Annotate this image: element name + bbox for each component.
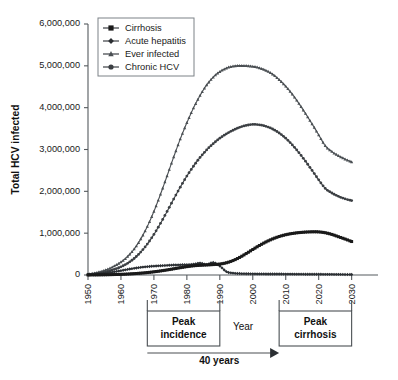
y-tick-label: 2,000,000 (39, 186, 80, 196)
data-point-marker (293, 146, 296, 149)
arrow-head (270, 348, 279, 358)
data-point-marker (302, 157, 305, 160)
data-point-marker (168, 168, 171, 171)
data-point-marker (214, 140, 217, 143)
data-point-marker (205, 149, 208, 152)
y-axis-tick-labels: 01,000,0002,000,0003,000,0004,000,0005,0… (39, 18, 80, 279)
data-point-marker (166, 174, 169, 177)
x-tick-label: 2020 (314, 284, 324, 304)
y-tick-label: 3,000,000 (39, 144, 80, 154)
x-tick-label: 1970 (149, 284, 159, 304)
data-point-marker (133, 257, 136, 260)
data-point-marker (170, 202, 173, 205)
data-point-marker (146, 243, 149, 246)
annotation-label-line2: incidence (160, 329, 207, 340)
y-tick-label: 5,000,000 (39, 60, 80, 70)
data-point-marker (203, 151, 206, 154)
y-tick-label: 1,000,000 (39, 228, 80, 238)
data-point-marker (172, 198, 175, 201)
x-tick-label: 1950 (83, 284, 93, 304)
data-point-marker (216, 139, 219, 142)
data-point-marker (153, 233, 156, 236)
data-point-marker (295, 149, 298, 152)
data-point-marker (190, 168, 193, 171)
data-point-marker (315, 175, 318, 178)
data-point-marker (148, 240, 151, 243)
data-point-marker (185, 175, 188, 178)
data-point-marker (324, 187, 327, 190)
data-point-marker (142, 248, 145, 251)
data-point-marker (159, 222, 162, 225)
data-point-marker (170, 162, 173, 165)
y-axis-title: Total HCV infected (10, 105, 21, 195)
data-point-marker (306, 163, 309, 166)
x-tick-label: 1980 (182, 284, 192, 304)
data-point-marker (212, 142, 215, 145)
data-point-marker (289, 141, 292, 144)
x-tick-label: 2000 (248, 284, 258, 304)
data-point-marker (210, 144, 213, 147)
annotation-peak-cirrhosis: Peakcirrhosis (279, 300, 352, 346)
data-point-marker (311, 169, 314, 172)
data-point-marker (280, 133, 283, 136)
data-point-marker (194, 162, 197, 165)
data-point-marker (161, 187, 164, 190)
data-point-marker (350, 273, 353, 276)
data-point-marker (179, 137, 182, 140)
data-point-marker (161, 218, 164, 221)
y-tick-label: 0 (75, 269, 80, 279)
data-point-marker (183, 178, 186, 181)
legend-item-label: Ever infected (125, 49, 179, 59)
legend-marker-square-icon (108, 25, 113, 30)
data-point-marker (350, 240, 353, 243)
y-axis-title-text: Total HCV infected (10, 105, 21, 195)
arrow-label: 40 years (199, 355, 239, 366)
data-point-marker (168, 206, 171, 209)
data-point-marker (177, 190, 180, 193)
data-point-marker (155, 204, 158, 207)
data-point-marker (319, 181, 322, 184)
data-point-marker (291, 143, 294, 146)
data-series-group (86, 64, 353, 277)
annotation-label-line1: Peak (172, 316, 196, 327)
data-point-marker (298, 151, 301, 154)
x-tick-label: 2010 (281, 284, 291, 304)
data-point-marker (346, 198, 349, 201)
data-point-marker (166, 210, 169, 213)
data-point-marker (174, 194, 177, 197)
data-point-marker (179, 186, 182, 189)
data-point-marker (317, 178, 320, 181)
data-point-marker (144, 245, 147, 248)
data-point-marker (199, 156, 202, 159)
y-axis-tick-group (84, 24, 88, 275)
data-point-marker (137, 253, 140, 256)
data-point-marker (150, 236, 153, 239)
legend-item-label: Chronic HCV (125, 62, 180, 72)
annotation-group: PeakincidencePeakcirrhosis40 years (147, 300, 351, 366)
y-tick-label: 6,000,000 (39, 18, 80, 28)
data-point-marker (181, 182, 184, 185)
chart-figure: Total HCV infected 195019601970198019902… (0, 0, 398, 380)
annotation-span-arrow: 40 years (147, 348, 279, 366)
data-point-marker (131, 259, 134, 262)
data-point-marker (139, 251, 142, 254)
data-point-marker (287, 139, 290, 142)
data-point-marker (350, 199, 353, 202)
data-point-marker (177, 143, 180, 146)
data-point-marker (157, 226, 160, 229)
x-tick-label: 1960 (116, 284, 126, 304)
series-chronic-hcv (87, 123, 353, 276)
series-line (88, 124, 352, 274)
data-point-marker (192, 165, 195, 168)
data-point-marker (157, 198, 160, 201)
data-point-marker (163, 180, 166, 183)
data-point-marker (135, 255, 138, 258)
data-point-marker (284, 137, 287, 140)
data-point-marker (322, 184, 325, 187)
data-point-marker (172, 155, 175, 158)
legend-item-label: Acute hepatitis (125, 36, 186, 46)
data-point-marker (163, 214, 166, 217)
data-point-marker (207, 146, 210, 149)
annotation-label-line1: Peak (304, 316, 328, 327)
data-point-marker (304, 160, 307, 163)
